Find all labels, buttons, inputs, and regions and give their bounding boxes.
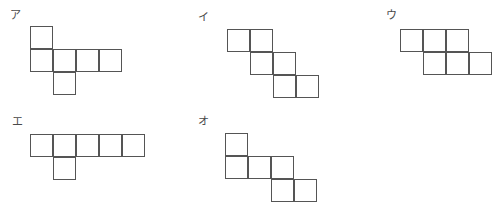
- grid-cell: [423, 52, 446, 75]
- shape-label-figure-u: ウ: [386, 10, 397, 21]
- grid-cell: [30, 134, 53, 157]
- grid-cell: [76, 134, 99, 157]
- grid-cell: [53, 157, 76, 180]
- grid-cell: [446, 52, 469, 75]
- grid-cell: [76, 49, 99, 72]
- grid-cell: [227, 29, 250, 52]
- shape-label-figure-a: ア: [10, 10, 21, 21]
- grid-cell: [30, 26, 53, 49]
- grid-cell: [53, 49, 76, 72]
- grid-cell: [446, 29, 469, 52]
- shape-label-figure-i: イ: [198, 12, 209, 23]
- grid-cell: [423, 29, 446, 52]
- grid-cell: [271, 156, 294, 179]
- grid-cell: [30, 49, 53, 72]
- grid-cell: [53, 72, 76, 95]
- grid-cell: [248, 156, 271, 179]
- grid-cell: [469, 52, 492, 75]
- grid-cell: [273, 52, 296, 75]
- grid-cell: [225, 156, 248, 179]
- shape-label-figure-o: オ: [198, 116, 209, 127]
- grid-cell: [294, 179, 317, 202]
- figure-board: アイウエオ: [0, 0, 496, 208]
- grid-cell: [99, 49, 122, 72]
- grid-cell: [53, 134, 76, 157]
- grid-cell: [271, 179, 294, 202]
- grid-cell: [99, 134, 122, 157]
- grid-cell: [296, 75, 319, 98]
- grid-cell: [250, 29, 273, 52]
- grid-cell: [225, 133, 248, 156]
- grid-cell: [400, 29, 423, 52]
- shape-label-figure-e: エ: [12, 116, 23, 127]
- grid-cell: [122, 134, 145, 157]
- grid-cell: [273, 75, 296, 98]
- grid-cell: [250, 52, 273, 75]
